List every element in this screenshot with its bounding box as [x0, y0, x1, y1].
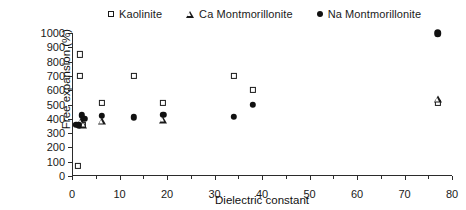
data-point — [230, 113, 236, 119]
x-minor-tick — [428, 176, 429, 179]
x-tick — [405, 176, 406, 180]
legend-label: Na Montmorillonite — [328, 8, 422, 20]
data-point — [77, 73, 83, 79]
chart-legend: KaoliniteCa MontmorilloniteNa Montmorill… — [108, 8, 421, 20]
legend-label: Kaolinite — [119, 8, 162, 20]
x-axis-title: Dielectric constant — [72, 194, 452, 206]
data-point — [249, 87, 255, 93]
x-minor-tick — [143, 176, 144, 179]
x-tick — [357, 176, 358, 180]
data-point — [75, 163, 81, 169]
data-point — [77, 51, 83, 57]
square-icon — [108, 11, 114, 17]
x-tick — [310, 176, 311, 180]
x-tick — [120, 176, 121, 180]
x-minor-tick — [381, 176, 382, 179]
data-point — [99, 100, 105, 106]
data-point — [249, 101, 255, 107]
x-tick — [262, 176, 263, 180]
x-minor-tick — [238, 176, 239, 179]
data-point — [230, 73, 236, 79]
legend-item-na-montmorillonite: Na Montmorillonite — [317, 8, 422, 20]
x-tick — [215, 176, 216, 180]
triangle-icon — [186, 11, 194, 18]
x-minor-tick — [333, 176, 334, 179]
scatter-chart-figure: KaoliniteCa MontmorilloniteNa Montmorill… — [0, 0, 466, 210]
circle-icon — [317, 11, 323, 17]
data-point — [131, 114, 137, 120]
legend-item-kaolinite: Kaolinite — [108, 8, 162, 20]
legend-label: Ca Montmorillonite — [199, 8, 293, 20]
data-point — [434, 29, 442, 37]
y-tick-label: 100 — [47, 156, 65, 168]
data-points-layer — [72, 33, 452, 176]
data-point — [160, 100, 166, 106]
y-axis-title: Free expansion (%) — [60, 19, 72, 139]
y-tick-label: 200 — [47, 141, 65, 153]
x-tick — [452, 176, 453, 180]
y-tick-label: 0 — [59, 170, 65, 182]
x-minor-tick — [96, 176, 97, 179]
x-axis-ticks — [72, 176, 452, 177]
x-minor-tick — [286, 176, 287, 179]
plot-area: 01020304050607080 0100200300400500600700… — [72, 33, 452, 176]
x-minor-tick — [191, 176, 192, 179]
x-tick — [167, 176, 168, 180]
y-tick — [68, 176, 72, 177]
data-point — [131, 73, 137, 79]
x-tick — [72, 176, 73, 180]
legend-item-ca-montmorillonite: Ca Montmorillonite — [186, 8, 293, 20]
x-axis-tick-labels: 01020304050607080 — [72, 182, 452, 183]
data-point — [434, 95, 442, 102]
